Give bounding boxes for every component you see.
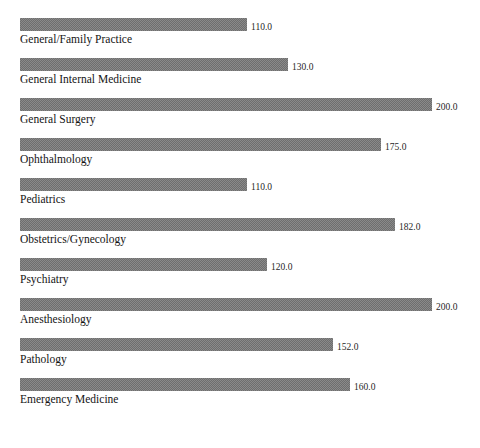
- category-label: Psychiatry: [20, 272, 69, 286]
- bar-row: 182.0Obstetrics/Gynecology: [0, 214, 480, 254]
- category-label: Pathology: [20, 352, 67, 366]
- chart-title: [0, 0, 480, 5]
- bar-track: 110.0: [0, 18, 480, 31]
- bar-row: 152.0Pathology: [0, 334, 480, 374]
- bar-value-label: 110.0: [251, 181, 272, 194]
- bar-chart-plot-area: 110.0General/Family Practice130.0General…: [0, 14, 480, 448]
- bar-track: 152.0: [0, 338, 480, 351]
- bar: [20, 338, 333, 351]
- bar-track: 110.0: [0, 178, 480, 191]
- bar-value-label: 120.0: [271, 261, 292, 274]
- bar-track: 200.0: [0, 98, 480, 111]
- bar: [20, 298, 432, 311]
- bar-value-label: 160.0: [354, 381, 375, 394]
- bar-row: 110.0General/Family Practice: [0, 14, 480, 54]
- category-label: Emergency Medicine: [20, 392, 118, 406]
- bar-row: 130.0General Internal Medicine: [0, 54, 480, 94]
- bar-value-label: 200.0: [436, 101, 457, 114]
- bar-row: 175.0Ophthalmology: [0, 134, 480, 174]
- bar: [20, 258, 267, 271]
- bar-row: 200.0Anesthesiology: [0, 294, 480, 334]
- bar-value-label: 175.0: [385, 141, 406, 154]
- category-label: Obstetrics/Gynecology: [20, 232, 126, 246]
- bar-track: 175.0: [0, 138, 480, 151]
- bar-value-label: 110.0: [251, 21, 272, 34]
- category-label: General Surgery: [20, 112, 95, 126]
- bar-value-label: 200.0: [436, 301, 457, 314]
- bar-row: 160.0Emergency Medicine: [0, 374, 480, 414]
- bar: [20, 98, 432, 111]
- bar-value-label: 130.0: [292, 61, 313, 74]
- bar-value-label: 182.0: [399, 221, 420, 234]
- bar: [20, 218, 395, 231]
- bar-track: 160.0: [0, 378, 480, 391]
- category-label: Pediatrics: [20, 192, 65, 206]
- category-label: Ophthalmology: [20, 152, 92, 166]
- bar-row: 120.0Psychiatry: [0, 254, 480, 294]
- bar: [20, 58, 288, 71]
- bar-row: 110.0Pediatrics: [0, 174, 480, 214]
- bar: [20, 178, 247, 191]
- bar-value-label: 152.0: [337, 341, 358, 354]
- bar: [20, 138, 381, 151]
- category-label: General/Family Practice: [20, 32, 132, 46]
- category-label: General Internal Medicine: [20, 72, 141, 86]
- bar-track: 200.0: [0, 298, 480, 311]
- bar-track: 120.0: [0, 258, 480, 271]
- category-label: Anesthesiology: [20, 312, 92, 326]
- bar: [20, 18, 247, 31]
- bar: [20, 378, 350, 391]
- bar-track: 182.0: [0, 218, 480, 231]
- bar-track: 130.0: [0, 58, 480, 71]
- bar-row: 200.0General Surgery: [0, 94, 480, 134]
